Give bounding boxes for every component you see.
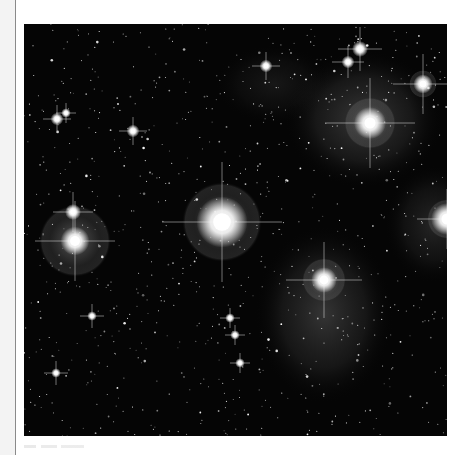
star-chain-1 [220, 308, 240, 328]
star-mid-left [119, 117, 147, 145]
figure-caption [24, 440, 84, 452]
star-lower-left [44, 361, 68, 385]
left-gutter [0, 0, 15, 455]
star-chain-3 [230, 353, 250, 373]
star-chain-4 [80, 304, 104, 328]
star-alcyone [162, 162, 282, 282]
star-field-image [24, 24, 447, 436]
document-page [0, 0, 470, 455]
star-chain-2 [225, 325, 245, 345]
caption-text-faint [24, 445, 84, 448]
page-margin-line [15, 0, 16, 455]
pleiades-photo [24, 24, 447, 436]
